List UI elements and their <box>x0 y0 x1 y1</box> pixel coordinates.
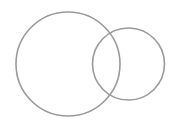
venn-diagram <box>0 0 181 123</box>
large-circle <box>16 12 120 116</box>
small-circle <box>93 28 165 100</box>
